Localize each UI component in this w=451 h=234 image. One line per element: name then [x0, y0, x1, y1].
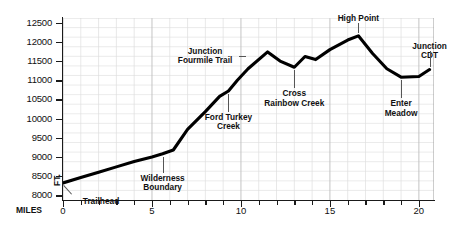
annotation-label: Ford Turkey Creek — [200, 113, 256, 132]
x-tick — [205, 200, 206, 205]
annotation-label: Cross Rainbow Creek — [260, 89, 328, 108]
y-tick — [56, 138, 63, 139]
x-tick — [401, 200, 402, 205]
x-tick — [223, 200, 224, 205]
y-tick-label: 11000 — [0, 74, 52, 85]
y-axis-title: FT. — [52, 174, 62, 186]
annotation-leader-line — [294, 70, 295, 88]
x-tick — [348, 200, 349, 205]
x-axis-title: MILES — [16, 205, 42, 215]
x-tick — [383, 200, 384, 205]
annotation-leader-line — [228, 94, 229, 112]
y-tick — [56, 80, 63, 81]
y-tick-label: 11500 — [0, 55, 52, 66]
x-tick — [259, 200, 260, 205]
elevation-profile-chart: 8000850090009500100001050011000115001200… — [0, 0, 451, 234]
y-tick-label: 12000 — [0, 36, 52, 47]
annotation-leader-line — [358, 23, 359, 33]
y-tick — [56, 61, 63, 62]
y-tick-label: 12500 — [0, 17, 52, 28]
x-tick — [312, 200, 313, 205]
x-tick — [277, 200, 278, 205]
y-tick — [56, 157, 63, 158]
annotation-leader-line — [163, 157, 164, 173]
x-tick — [294, 200, 295, 205]
x-tick — [170, 200, 171, 205]
annotation-label: Junction Fourmile Trail — [172, 47, 238, 66]
y-tick-label: 10000 — [0, 113, 52, 124]
x-tick-label: 5 — [137, 205, 167, 216]
y-tick — [56, 42, 63, 43]
x-tick — [365, 200, 366, 205]
y-tick — [56, 195, 63, 196]
x-tick — [134, 200, 135, 205]
y-tick — [56, 99, 63, 100]
y-tick — [56, 119, 63, 120]
x-tick-label: 10 — [226, 205, 256, 216]
plot-area — [63, 18, 434, 200]
y-tick-label: 10500 — [0, 93, 52, 104]
annotation-leader-line — [401, 80, 402, 98]
x-tick-label: 0 — [48, 205, 78, 216]
y-tick-label: 9000 — [0, 151, 52, 162]
annotation-label: High Point — [334, 14, 382, 23]
elevation-line — [63, 18, 434, 200]
x-tick-label: 15 — [315, 205, 345, 216]
annotation-label: Trailhead — [75, 197, 127, 206]
y-tick — [56, 23, 63, 24]
annotation-label: Wilderness Boundary — [133, 174, 193, 193]
annotation-leader-line — [239, 56, 246, 57]
annotation-label: Enter Meadow — [380, 99, 422, 118]
x-tick-label: 20 — [404, 205, 434, 216]
y-tick-label: 9500 — [0, 132, 52, 143]
y-axis — [62, 17, 63, 201]
y-tick-label: 8500 — [0, 170, 52, 181]
y-tick-label: 8000 — [0, 189, 52, 200]
annotation-leader-line — [430, 51, 431, 67]
x-tick — [188, 200, 189, 205]
